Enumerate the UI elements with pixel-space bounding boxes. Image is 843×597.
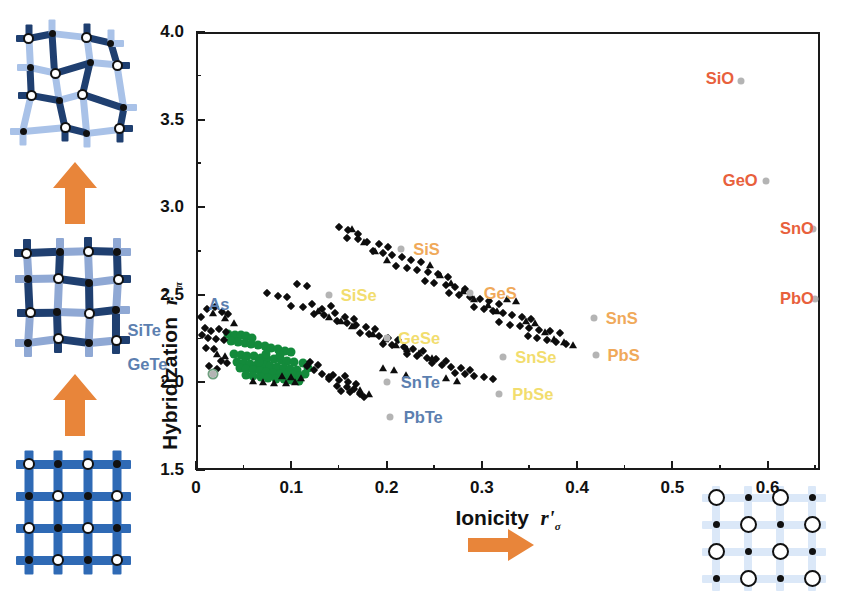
y-axis-title: Hybridization r-1π <box>158 282 184 450</box>
annotation-marker <box>383 379 390 386</box>
x-tick-minor <box>243 465 245 470</box>
x-tick-label: 0.5 <box>661 478 685 498</box>
data-point <box>447 279 455 286</box>
annotation-marker <box>499 353 506 360</box>
y-tick-major <box>196 31 205 33</box>
data-point <box>230 319 238 326</box>
annotation-label-pbo: PbO <box>780 289 814 308</box>
data-point <box>428 354 436 361</box>
scatter-chart: 00.10.20.30.40.50.61.52.02.53.03.54.0 Si… <box>0 0 843 597</box>
annotation-label-sns: SnS <box>606 308 638 327</box>
data-point <box>278 372 286 379</box>
data-point <box>569 341 577 348</box>
data-point <box>442 374 450 381</box>
y-tick-major <box>196 294 205 296</box>
x-tick-minor <box>528 465 530 470</box>
y-tick-label: 3.5 <box>160 110 184 130</box>
x-tick-minor <box>433 465 435 470</box>
y-tick-minor <box>196 250 201 252</box>
x-tick-minor <box>719 465 721 470</box>
annotation-marker <box>591 314 598 321</box>
y-tick-major <box>196 381 205 383</box>
y-tick-major <box>196 206 205 208</box>
data-point <box>371 247 379 254</box>
data-point <box>356 386 364 393</box>
x-tick-label: 0 <box>191 478 200 498</box>
y-tick-minor <box>196 162 201 164</box>
x-tick-label: 0.1 <box>279 478 303 498</box>
y-tick-major <box>196 469 205 471</box>
plot-frame <box>196 32 820 470</box>
data-point <box>348 322 356 329</box>
annotation-label-pbs: PbS <box>608 346 640 365</box>
x-tick-label: 0.4 <box>565 478 589 498</box>
y-tick-label: 3.0 <box>160 197 184 217</box>
x-tick-major <box>386 461 388 470</box>
data-point <box>560 338 568 345</box>
data-point <box>531 319 539 326</box>
data-point <box>348 225 356 232</box>
data-point <box>297 374 305 381</box>
data-point <box>426 261 434 268</box>
x-tick-major <box>576 461 578 470</box>
data-point <box>360 238 368 245</box>
y-tick-minor <box>196 75 201 77</box>
data-point <box>493 307 501 314</box>
data-point <box>275 350 284 359</box>
data-point <box>270 379 278 386</box>
data-point <box>261 350 270 359</box>
annotation-marker <box>467 289 474 296</box>
annotation-marker <box>383 335 390 342</box>
data-point <box>287 347 296 356</box>
x-tick-major <box>290 461 292 470</box>
annotation-label-sis: SiS <box>413 240 440 259</box>
annotation-label-pbte: PbTe <box>404 407 443 426</box>
data-point <box>282 380 290 387</box>
data-point <box>453 377 461 384</box>
x-tick-major <box>481 461 483 470</box>
annotation-label-ges: GeS <box>484 283 517 302</box>
x-tick-major <box>767 461 769 470</box>
annotation-label-pbse: PbSe <box>512 385 553 404</box>
x-tick-label: 0.6 <box>756 478 780 498</box>
x-tick-minor <box>814 465 816 470</box>
data-point <box>379 365 387 372</box>
x-tick-minor <box>338 465 340 470</box>
y-tick-label: 4.0 <box>160 22 184 42</box>
data-point <box>541 328 549 335</box>
annotation-label-sno: SnO <box>780 219 814 238</box>
data-point <box>337 317 345 324</box>
annotation-marker <box>737 77 744 84</box>
x-axis-title: Ionicity r'σ <box>455 506 560 532</box>
data-point <box>550 335 558 342</box>
annotation-label-site: SiTe <box>127 320 161 339</box>
annotation-marker <box>495 391 502 398</box>
data-point <box>459 287 467 294</box>
annotation-marker <box>762 177 769 184</box>
annotation-label-as: As <box>208 295 229 314</box>
annotation-marker <box>593 352 600 359</box>
annotation-label-snse: SnSe <box>515 347 556 366</box>
data-point <box>314 307 322 314</box>
data-point <box>221 352 229 359</box>
x-tick-major <box>671 461 673 470</box>
y-tick-minor <box>196 425 201 427</box>
annotation-marker <box>397 246 404 253</box>
data-point <box>249 377 257 384</box>
data-point <box>383 256 391 263</box>
annotation-marker <box>387 413 394 420</box>
data-point <box>522 317 530 324</box>
data-point <box>259 378 267 385</box>
data-point <box>369 330 377 337</box>
annotation-label-gese: GeSe <box>398 329 440 348</box>
x-tick-label: 0.2 <box>375 478 399 498</box>
annotation-label-snte: SnTe <box>401 373 440 392</box>
data-point <box>365 390 373 397</box>
x-tick-minor <box>624 465 626 470</box>
data-point <box>436 271 444 278</box>
data-point <box>390 367 398 374</box>
annotation-marker <box>326 291 333 298</box>
annotation-label-geo: GeO <box>723 171 758 190</box>
data-point <box>287 373 295 380</box>
annotation-label-sio: SiO <box>706 69 734 88</box>
